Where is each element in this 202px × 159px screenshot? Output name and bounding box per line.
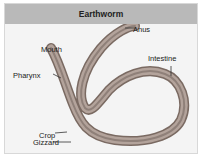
- earthworm-drawing: [5, 24, 199, 153]
- label-intestine: Intestine: [148, 54, 176, 63]
- label-gizzard: Gizzard: [33, 138, 59, 147]
- label-anus: Anus: [133, 25, 150, 34]
- earthworm-illustration: Anus Mouth Intestine Pharynx Crop Gizzar…: [5, 24, 197, 153]
- label-pharynx: Pharynx: [13, 71, 41, 80]
- label-mouth: Mouth: [41, 45, 62, 54]
- earthworm-diagram-card: Earthworm Anus Mouth Intestine Pharynx C…: [4, 3, 198, 154]
- diagram-title: Earthworm: [5, 4, 197, 24]
